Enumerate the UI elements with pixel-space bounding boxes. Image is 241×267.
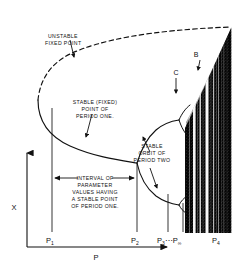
leader-marker-b bbox=[198, 60, 200, 70]
period-four-branch-b bbox=[179, 120, 186, 134]
marker-c-label: C bbox=[173, 69, 178, 76]
annotation-interval-line-1: INTERVAL OF bbox=[76, 175, 113, 181]
label-pinf-sub: ∞ bbox=[178, 240, 182, 246]
annotation-stable-p1-line-1: STABLE (FIXED) bbox=[73, 99, 118, 105]
annotation-unstable-line-2: FIXED POINT bbox=[45, 40, 82, 46]
label-p2: P2 bbox=[131, 236, 139, 246]
x-axis-label: P bbox=[93, 253, 98, 262]
y-axis-label: X bbox=[11, 203, 16, 212]
label-ellipsis: ⋯ bbox=[165, 236, 173, 245]
label-p4-sub: 4 bbox=[217, 240, 220, 246]
annotation-unstable-line-1: UNSTABLE bbox=[48, 33, 78, 39]
period-four-branch-d bbox=[179, 205, 186, 213]
marker-b-label: B bbox=[194, 51, 199, 58]
annotation-interval-line-2: PARAMETER bbox=[77, 182, 112, 188]
annotation-stable-p1-line-2: POINT OF bbox=[81, 106, 108, 112]
label-p1-sub: 1 bbox=[51, 240, 54, 246]
annotation-interval-line-4: A STABLE POINT bbox=[72, 196, 119, 202]
annotation-stable-p1-line-3: PERIOD ONE. bbox=[76, 113, 114, 119]
label-p4: P4 bbox=[212, 236, 220, 246]
annotation-interval: INTERVAL OF PARAMETER VALUES HAVING A ST… bbox=[71, 175, 119, 209]
chaotic-region bbox=[182, 20, 234, 240]
annotation-stable-p2-line-2: ORBIT OF bbox=[138, 150, 165, 156]
annotation-stable-p2-line-1: STABLE bbox=[141, 143, 163, 149]
diagram-canvas: UNSTABLE FIXED POINT STABLE (FIXED) POIN… bbox=[0, 0, 241, 267]
annotation-interval-line-5: OF PERIOD ONE. bbox=[71, 203, 119, 209]
leader-stable-p2-lower bbox=[150, 168, 157, 188]
bifurcation-diagram-figure: UNSTABLE FIXED POINT STABLE (FIXED) POIN… bbox=[0, 0, 241, 267]
annotation-unstable: UNSTABLE FIXED POINT bbox=[45, 33, 82, 46]
annotation-stable-p2-line-3: PERIOD TWO bbox=[134, 157, 171, 163]
annotation-stable-p2: STABLE ORBIT OF PERIOD TWO bbox=[134, 143, 171, 163]
label-p1: P1 bbox=[46, 236, 54, 246]
annotation-stable-p1: STABLE (FIXED) POINT OF PERIOD ONE. bbox=[73, 99, 118, 119]
annotation-interval-line-3: VALUES HAVING bbox=[72, 189, 118, 195]
label-p2-sub: 2 bbox=[136, 240, 139, 246]
period-two-lower-branch bbox=[137, 163, 179, 205]
parameter-labels: P1 P2 P3⋯P∞ P4 bbox=[46, 236, 220, 246]
label-p3-pinf: P3⋯P∞ bbox=[157, 236, 182, 246]
